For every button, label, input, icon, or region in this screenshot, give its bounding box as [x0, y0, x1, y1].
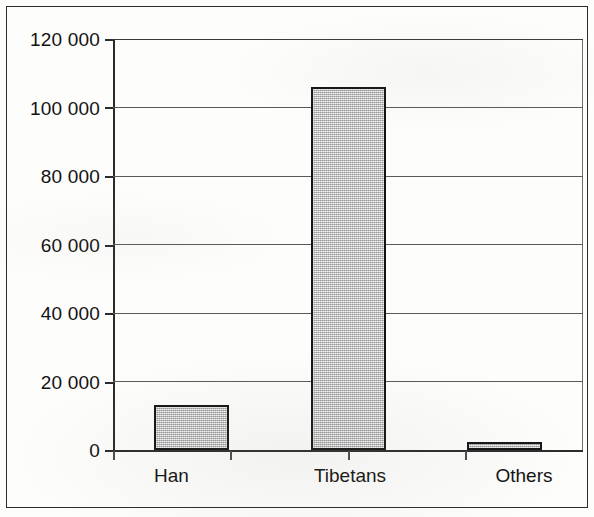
y-tick-label-40000: 40 000	[41, 304, 100, 323]
bar-chart-screenshot: 120 000 100 000 80 000 60 000 40 000 20 …	[0, 0, 594, 517]
x-category-label-han: Han	[113, 466, 230, 485]
bar-tibetans[interactable]	[311, 87, 386, 450]
bar-others[interactable]	[467, 442, 542, 450]
x-category-label-tibetans: Tibetans	[290, 466, 410, 485]
y-tick-label-100000: 100 000	[30, 99, 100, 118]
x-category-label-others: Others	[465, 466, 583, 485]
y-axis-label-group: 120 000 100 000 80 000 60 000 40 000 20 …	[0, 0, 100, 517]
bar-han[interactable]	[154, 405, 229, 450]
x-tick-mark-2	[348, 451, 350, 460]
y-tick-label-60000: 60 000	[41, 236, 100, 255]
x-tick-mark-1	[230, 451, 232, 460]
y-tick-label-80000: 80 000	[41, 167, 100, 186]
plot-area	[113, 39, 583, 450]
x-tick-mark-0	[113, 451, 115, 460]
x-tick-mark-3	[465, 451, 467, 460]
y-tick-label-0: 0	[89, 441, 100, 460]
gridline-120000	[113, 39, 583, 40]
y-tick-label-20000: 20 000	[41, 373, 100, 392]
y-tick-label-120000: 120 000	[30, 30, 100, 49]
